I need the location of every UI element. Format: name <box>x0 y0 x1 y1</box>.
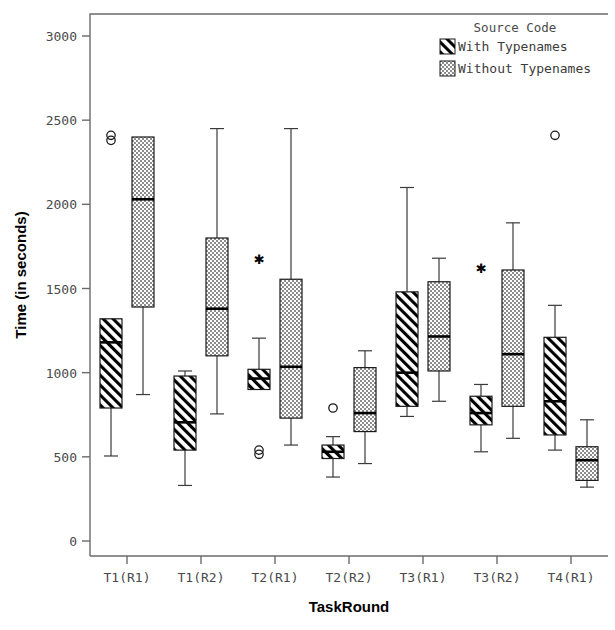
box-iqr <box>280 279 302 418</box>
extreme-point-1: ✱ <box>254 248 264 268</box>
y-tick-label-0: 0 <box>69 534 77 549</box>
box-iqr <box>428 282 450 371</box>
boxplot-T3(R1)-without <box>428 258 450 401</box>
x-tick-label-T3(R2): T3(R2) <box>474 570 521 585</box>
box-iqr <box>354 368 376 432</box>
outlier-point-2 <box>107 131 115 139</box>
outlier-point-1 <box>551 131 559 139</box>
boxplot-T4(R1)-without <box>576 420 598 487</box>
x-tick-label-T4(R1): T4(R1) <box>548 570 595 585</box>
legend-label-2: Without Typenames <box>458 61 591 76</box>
boxplot-T3(R2)-without <box>502 223 524 438</box>
x-tick-label-T2(R2): T2(R2) <box>326 570 373 585</box>
legend: Source CodeWith TypenamesWithout Typenam… <box>440 20 591 76</box>
boxplot-T2(R1)-with: ✱ <box>248 248 270 458</box>
box-iqr <box>174 376 196 450</box>
box-iqr <box>100 319 122 408</box>
plot-area <box>90 14 608 556</box>
x-tick-label-T1(R2): T1(R2) <box>178 570 225 585</box>
boxplot-T3(R1)-with <box>396 188 418 417</box>
boxplot-T2(R2)-with <box>322 404 344 477</box>
boxplot-T1(R2)-with <box>174 371 196 485</box>
extreme-point-1: ✱ <box>476 257 486 277</box>
x-tick-label-T1(R1): T1(R1) <box>104 570 151 585</box>
box-iqr <box>132 137 154 307</box>
boxplot-T1(R2)-without <box>206 129 228 414</box>
legend-swatch-1 <box>440 39 455 54</box>
series-1: ✱✱ <box>100 131 566 485</box>
boxplot-T2(R1)-without <box>280 129 302 445</box>
series-2 <box>132 129 598 488</box>
chart-canvas: 050010001500200025003000Time (in seconds… <box>0 0 615 630</box>
outlier-point-1 <box>329 404 337 412</box>
y-tick-label-1000: 1000 <box>46 366 77 381</box>
x-axis: T1(R1)T1(R2)T2(R1)T2(R2)T3(R1)T3(R2)T4(R… <box>104 556 595 585</box>
box-iqr <box>576 447 598 481</box>
boxplot-T3(R2)-with: ✱ <box>470 257 492 452</box>
box-iqr <box>544 337 566 435</box>
y-tick-label-2500: 2500 <box>46 113 77 128</box>
x-tick-label-T2(R1): T2(R1) <box>252 570 299 585</box>
y-tick-label-1500: 1500 <box>46 282 77 297</box>
x-tick-label-T3(R1): T3(R1) <box>400 570 447 585</box>
legend-title: Source Code <box>474 20 557 35</box>
boxplot-T1(R1)-without <box>132 137 154 395</box>
y-tick-label-3000: 3000 <box>46 29 77 44</box>
plot-frame <box>90 14 608 556</box>
boxplot-chart: 050010001500200025003000Time (in seconds… <box>0 0 615 630</box>
boxplot-T4(R1)-with <box>544 131 566 450</box>
box-iqr <box>206 238 228 356</box>
y-axis: 050010001500200025003000 <box>46 29 90 549</box>
legend-label-1: With Typenames <box>458 39 568 54</box>
box-iqr <box>502 270 524 406</box>
boxplot-T2(R2)-without <box>354 351 376 464</box>
boxplot-T1(R1)-with <box>100 131 122 456</box>
box-iqr <box>470 396 492 425</box>
box-iqr <box>396 292 418 406</box>
x-axis-title: TaskRound <box>309 598 390 615</box>
y-axis-title: Time (in seconds) <box>12 211 29 338</box>
legend-swatch-2 <box>440 61 455 76</box>
y-tick-label-500: 500 <box>54 450 77 465</box>
y-tick-label-2000: 2000 <box>46 197 77 212</box>
